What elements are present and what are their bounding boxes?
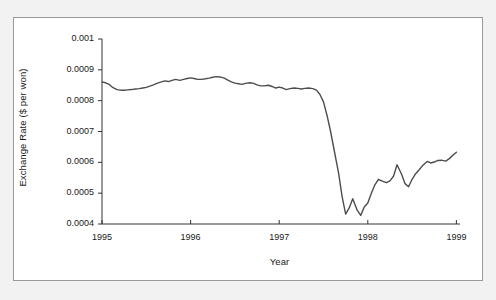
y-tick-label: 0.0008: [48, 95, 94, 105]
y-axis-title: Exchange Rate ($ per won): [17, 48, 28, 208]
y-tick-label: 0.0005: [48, 187, 94, 197]
x-axis-title: Year: [102, 256, 457, 267]
chart-axes: [102, 39, 460, 224]
x-tick-label: 1996: [166, 232, 216, 242]
y-axis-ticks: [98, 39, 102, 224]
x-tick-label: 1998: [343, 232, 393, 242]
y-tick-label: 0.001: [48, 33, 94, 43]
data-series-group: [102, 77, 456, 216]
exchange-rate-line: [102, 77, 456, 216]
x-tick-label: 1995: [77, 232, 127, 242]
x-axis-ticks: [102, 220, 456, 224]
x-tick-label: 1997: [254, 232, 304, 242]
x-tick-label: 1999: [431, 232, 481, 242]
y-tick-label: 0.0007: [48, 126, 94, 136]
y-tick-label: 0.0004: [48, 218, 94, 228]
y-tick-label: 0.0006: [48, 156, 94, 166]
line-chart-svg: [0, 0, 496, 300]
figure-root: Exchange Rate ($ per won) Year 0.00040.0…: [0, 0, 496, 300]
y-tick-label: 0.0009: [48, 64, 94, 74]
chart-plot-area: Exchange Rate ($ per won) Year 0.00040.0…: [0, 0, 496, 300]
